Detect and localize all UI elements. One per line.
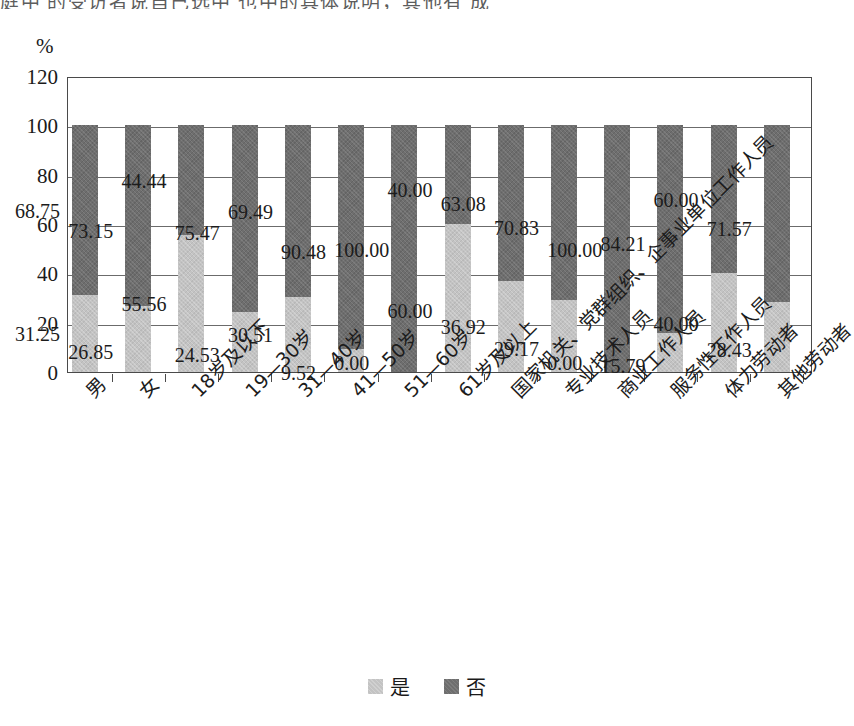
stacked-bar-chart: % 020406080100120 68.7531.2573.1526.8544… (0, 0, 854, 726)
bar-segment-no (72, 125, 98, 295)
y-tick-label: 40 (12, 264, 58, 285)
value-label-no: 100.00 (334, 240, 389, 260)
value-label-no: 44.44 (121, 171, 166, 191)
bar-segment-no (338, 125, 364, 348)
x-tick (165, 374, 166, 382)
value-label-no: 71.57 (707, 219, 752, 239)
y-tick-label: 120 (12, 67, 58, 88)
y-axis-unit-label: % (36, 34, 54, 59)
bar-segment-no (551, 125, 577, 300)
value-label-yes: 26.85 (68, 342, 113, 362)
value-label-no: 73.15 (68, 221, 113, 241)
bar-1 (125, 125, 151, 372)
legend-label: 否 (466, 672, 486, 701)
value-label-yes: 60.00 (388, 301, 433, 321)
bar-2 (178, 125, 204, 372)
value-label-no: 75.47 (175, 223, 220, 243)
bar-0 (72, 125, 98, 372)
dark-gray-swatch (444, 679, 459, 694)
y-tick-label: 100 (12, 116, 58, 137)
bar-segment-yes (125, 306, 151, 372)
chart-legend: 是否 (0, 672, 854, 701)
value-label-no: 70.83 (494, 218, 539, 238)
value-label-yes: 31.25 (15, 324, 60, 344)
bar-segment-no (498, 125, 524, 281)
value-label-no: 68.75 (15, 201, 60, 221)
y-tick-label: 80 (12, 166, 58, 187)
value-label-no: 69.49 (228, 202, 273, 222)
value-label-yes: 55.56 (121, 294, 166, 314)
bar-segment-no (285, 125, 311, 296)
bar-segment-no (125, 125, 151, 305)
y-tick-label: 0 (12, 363, 58, 384)
x-tick (112, 374, 113, 382)
legend-label: 是 (390, 672, 410, 701)
value-label-no: 100.00 (547, 240, 602, 260)
x-label-1: 女 (131, 370, 164, 403)
value-label-no: 63.08 (441, 194, 486, 214)
bar-segment-no (178, 125, 204, 235)
light-gray-swatch (368, 679, 383, 694)
x-label-0: 男 (78, 370, 111, 403)
legend-item-yes[interactable]: 是 (368, 672, 410, 701)
legend-item-no[interactable]: 否 (444, 672, 486, 701)
value-label-no: 40.00 (388, 180, 433, 200)
value-label-no: 90.48 (281, 242, 326, 262)
